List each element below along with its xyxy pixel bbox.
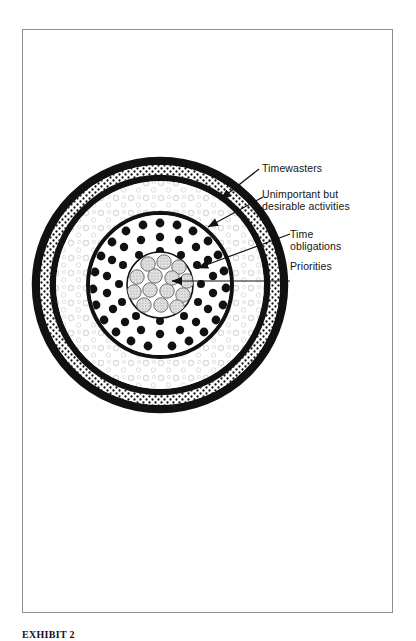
- page-canvas: Timewasters Unimportant but desirable ac…: [0, 0, 416, 641]
- core-priorities: [127, 252, 194, 318]
- concentric-rings-diagram: [22, 29, 393, 613]
- label-unimportant-but-desirable-activities: Unimportant but desirable activities: [262, 188, 350, 212]
- label-timewasters: Timewasters: [262, 162, 322, 174]
- exhibit-caption: EXHIBIT 2: [22, 629, 75, 641]
- label-time-obligations: Time obligations: [290, 228, 341, 252]
- label-priorities: Priorities: [290, 260, 332, 272]
